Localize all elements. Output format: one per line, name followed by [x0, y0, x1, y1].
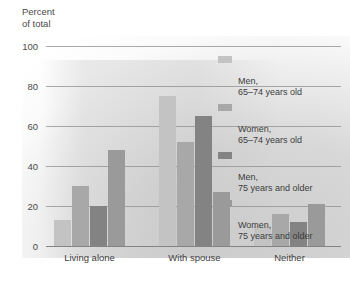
legend-label: Women, 75 years and older — [238, 220, 313, 241]
y-axis-title: Percent of total — [22, 6, 55, 29]
category-label: Living alone — [64, 252, 115, 263]
y-axis-tick-label: 20 — [4, 201, 38, 212]
bar — [195, 116, 212, 246]
bar-chart-figure: Percent of total 020406080100 Living alo… — [0, 0, 350, 285]
bar — [90, 206, 107, 246]
legend-item: Women, 75 years and older — [218, 199, 348, 241]
legend-item: Men, 75 years and older — [218, 151, 348, 193]
y-axis-tick-label: 60 — [4, 121, 38, 132]
category-label: With spouse — [168, 252, 220, 263]
legend-swatch-men-65-74 — [218, 56, 232, 63]
legend-label: Men, 65–74 years old — [238, 76, 302, 97]
bar — [108, 150, 125, 246]
legend-swatch-women-65-74 — [218, 104, 232, 111]
bar — [54, 220, 71, 246]
y-axis-tick-label: 100 — [4, 41, 38, 52]
legend-item: Women, 65–74 years old — [218, 103, 348, 145]
legend: Men, 65–74 years old Women, 65–74 years … — [218, 55, 348, 247]
category-label: Neither — [274, 252, 305, 263]
y-axis-tick-label: 80 — [4, 81, 38, 92]
bar — [177, 142, 194, 246]
legend-item: Men, 65–74 years old — [218, 55, 348, 97]
y-axis-tick-label: 0 — [4, 241, 38, 252]
legend-label: Men, 75 years and older — [238, 172, 313, 193]
legend-swatch-men-75-plus — [218, 152, 232, 159]
y-axis-tick-label: 40 — [4, 161, 38, 172]
legend-label: Women, 65–74 years old — [238, 124, 302, 145]
bar — [72, 186, 89, 246]
legend-swatch-women-75-plus — [218, 200, 232, 207]
bar — [159, 96, 176, 246]
bar-group — [54, 46, 125, 246]
